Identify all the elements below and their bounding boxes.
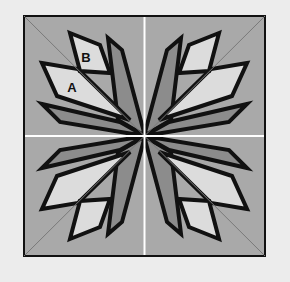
quilt-block-diagram: B A	[0, 0, 290, 282]
label-b: B	[81, 50, 90, 65]
label-a: A	[67, 80, 77, 95]
